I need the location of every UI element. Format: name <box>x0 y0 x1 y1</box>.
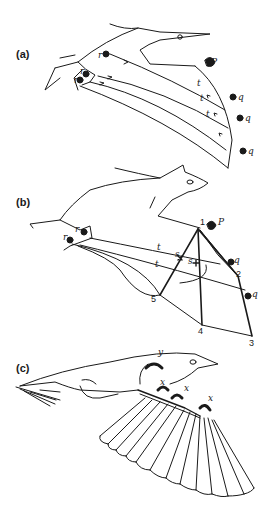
panel-label-c: (c) <box>16 362 29 374</box>
label-t: t <box>200 94 204 103</box>
digit-4: 4 <box>198 327 203 336</box>
label-y: y <box>158 348 163 357</box>
panel-a-pterosaur: (a) r r r P t t t q q q <box>0 0 272 170</box>
digit-1: 1 <box>200 218 205 227</box>
label-r: r <box>98 51 102 60</box>
panel-label-b: (b) <box>16 196 30 208</box>
panel-b-bat: (b) r r P t t s s q q 1 2 3 4 5 <box>0 150 272 350</box>
label-r: r <box>63 233 67 242</box>
label-t: t <box>206 110 210 119</box>
label-q: q <box>245 114 251 123</box>
label-s: s <box>175 250 180 259</box>
label-x: x <box>184 384 189 393</box>
bat-drawing <box>0 150 272 350</box>
label-r: r <box>74 76 78 85</box>
digit-5: 5 <box>151 295 156 304</box>
label-q: q <box>252 290 258 299</box>
label-t: t <box>157 243 161 252</box>
panel-c-bird: (c) y x x x <box>0 340 272 510</box>
label-p: P <box>218 218 224 227</box>
panel-label-a: (a) <box>16 48 29 60</box>
label-t: t <box>155 260 159 269</box>
label-q: q <box>238 93 244 102</box>
label-t: t <box>197 79 201 88</box>
label-x: x <box>160 378 165 387</box>
label-p: P <box>211 58 217 67</box>
bird-drawing <box>0 340 272 510</box>
digit-2: 2 <box>236 270 241 279</box>
pterosaur-drawing <box>0 0 272 170</box>
label-r: r <box>75 225 79 234</box>
label-r: r <box>80 67 84 76</box>
label-x: x <box>208 394 213 403</box>
label-s: s <box>188 257 193 266</box>
label-q: q <box>234 256 240 265</box>
